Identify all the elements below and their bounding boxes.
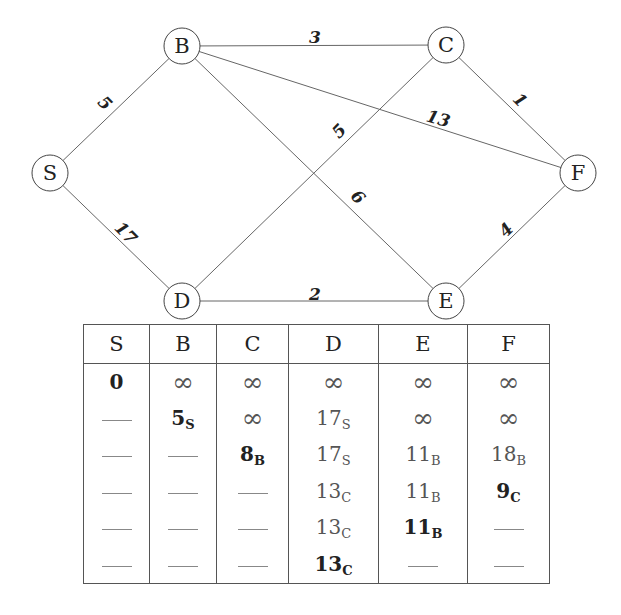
table-cell bbox=[150, 437, 217, 474]
table-cell: ∞ bbox=[379, 364, 468, 401]
table-cell: 11B bbox=[379, 474, 468, 511]
node-label: S bbox=[43, 161, 57, 185]
final-distance: 0 bbox=[110, 370, 124, 394]
table-cell: ∞ bbox=[468, 364, 550, 401]
table-cell: 13C bbox=[289, 547, 379, 584]
edge-C-F bbox=[446, 45, 578, 173]
table-cell bbox=[217, 547, 289, 584]
dash-placeholder bbox=[494, 566, 524, 567]
dash-placeholder bbox=[102, 456, 132, 457]
infinity-value: ∞ bbox=[242, 403, 264, 433]
dash-placeholder bbox=[238, 529, 268, 530]
predecessor-subscript: B bbox=[254, 453, 265, 468]
edge-weight-B-C: 3 bbox=[309, 27, 321, 47]
table-cell bbox=[150, 510, 217, 547]
dash-placeholder bbox=[408, 566, 438, 567]
table-cell: ∞ bbox=[468, 401, 550, 438]
tentative-distance: 11B bbox=[405, 479, 440, 503]
table-cell: ∞ bbox=[289, 364, 379, 401]
edge-weight-E-F: 4 bbox=[495, 219, 518, 242]
table-cell bbox=[84, 474, 150, 511]
table-cell: 17S bbox=[289, 437, 379, 474]
edge-weight-B-F: 13 bbox=[424, 106, 452, 132]
node-label: C bbox=[438, 33, 454, 57]
table-cell bbox=[217, 510, 289, 547]
edge-weight-B-E: 6 bbox=[347, 186, 370, 209]
dash-placeholder bbox=[168, 493, 198, 494]
table-cell bbox=[150, 474, 217, 511]
table-cell: 18B bbox=[468, 437, 550, 474]
table-cell: 5S bbox=[150, 401, 217, 438]
final-distance: 13C bbox=[314, 552, 352, 576]
table-cell: 13C bbox=[289, 474, 379, 511]
predecessor-subscript: S bbox=[342, 453, 351, 468]
dash-placeholder bbox=[238, 493, 268, 494]
table-cell bbox=[84, 510, 150, 547]
tentative-distance: 13C bbox=[316, 479, 351, 503]
dijkstra-table: SBCDEF 0∞∞∞∞∞5S∞17S∞∞8B17S11B18B13C11B9C… bbox=[83, 324, 550, 584]
infinity-value: ∞ bbox=[412, 403, 434, 433]
predecessor-subscript: S bbox=[342, 417, 351, 432]
final-distance: 9C bbox=[496, 479, 520, 503]
infinity-value: ∞ bbox=[412, 367, 434, 397]
column-header-E: E bbox=[379, 325, 468, 364]
table-cell: 9C bbox=[468, 474, 550, 511]
node-B: B bbox=[164, 28, 200, 64]
tentative-distance: 18B bbox=[491, 442, 526, 466]
table-cell bbox=[84, 547, 150, 584]
predecessor-subscript: C bbox=[341, 490, 351, 505]
node-label: F bbox=[571, 161, 586, 185]
edge-weight-C-F: 1 bbox=[509, 89, 532, 112]
infinity-value: ∞ bbox=[323, 367, 345, 397]
dash-placeholder bbox=[102, 493, 132, 494]
infinity-value: ∞ bbox=[498, 367, 520, 397]
table-cell: 13C bbox=[289, 510, 379, 547]
dash-placeholder bbox=[238, 566, 268, 567]
table-row: 13C11B9C bbox=[84, 474, 550, 511]
table-cell: 0 bbox=[84, 364, 150, 401]
node-label: E bbox=[438, 289, 453, 313]
table-cell bbox=[84, 437, 150, 474]
predecessor-subscript: B bbox=[431, 453, 441, 468]
table-body: 0∞∞∞∞∞5S∞17S∞∞8B17S11B18B13C11B9C13C11B1… bbox=[84, 364, 550, 584]
predecessor-subscript: C bbox=[510, 490, 520, 505]
node-E: E bbox=[428, 283, 464, 319]
table-row: 13C bbox=[84, 547, 550, 584]
dash-placeholder bbox=[494, 529, 524, 530]
node-S: S bbox=[32, 155, 68, 191]
table-header-row: SBCDEF bbox=[84, 325, 550, 364]
dash-placeholder bbox=[102, 420, 132, 421]
dash-placeholder bbox=[168, 529, 198, 530]
infinity-value: ∞ bbox=[242, 367, 264, 397]
node-label: D bbox=[174, 289, 191, 313]
table-cell: 11B bbox=[379, 510, 468, 547]
dash-placeholder bbox=[102, 529, 132, 530]
table-cell bbox=[468, 510, 550, 547]
predecessor-subscript: S bbox=[185, 417, 194, 432]
predecessor-subscript: C bbox=[342, 563, 352, 578]
table-cell bbox=[150, 547, 217, 584]
column-header-F: F bbox=[468, 325, 550, 364]
table-row: 8B17S11B18B bbox=[84, 437, 550, 474]
edge-weight-D-E: 2 bbox=[308, 284, 321, 304]
predecessor-subscript: B bbox=[516, 453, 526, 468]
table-cell: ∞ bbox=[379, 401, 468, 438]
table-row: 0∞∞∞∞∞ bbox=[84, 364, 550, 401]
tentative-distance: 17S bbox=[316, 406, 350, 430]
column-header-S: S bbox=[84, 325, 150, 364]
table-row: 13C11B bbox=[84, 510, 550, 547]
final-distance: 11B bbox=[404, 515, 443, 539]
infinity-value: ∞ bbox=[498, 403, 520, 433]
column-header-D: D bbox=[289, 325, 379, 364]
edge-S-B bbox=[50, 46, 182, 173]
tentative-distance: 13C bbox=[316, 515, 351, 539]
table-cell bbox=[379, 547, 468, 584]
tentative-distance: 17S bbox=[316, 442, 350, 466]
node-label: B bbox=[174, 34, 189, 58]
table-cell bbox=[468, 547, 550, 584]
table-cell: ∞ bbox=[150, 364, 217, 401]
final-distance: 5S bbox=[171, 406, 194, 430]
edge-weight-S-B: 5 bbox=[94, 92, 117, 115]
predecessor-subscript: B bbox=[431, 526, 442, 541]
node-F: F bbox=[560, 155, 596, 191]
